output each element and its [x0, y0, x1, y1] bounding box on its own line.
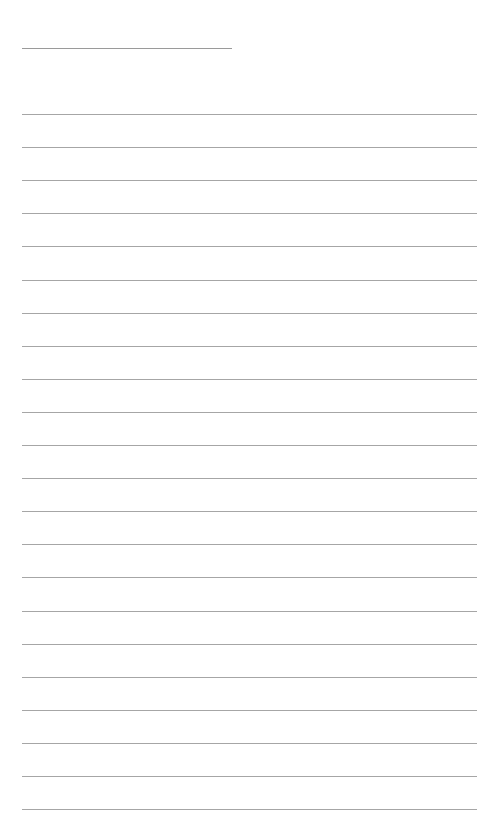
writing-line [22, 478, 477, 479]
writing-line [22, 577, 477, 578]
writing-line [22, 644, 477, 645]
writing-line [22, 114, 477, 115]
writing-line [22, 677, 477, 678]
writing-line [22, 809, 477, 810]
writing-line [22, 147, 477, 148]
writing-line [22, 743, 477, 744]
writing-line [22, 213, 477, 214]
writing-line [22, 280, 477, 281]
ruled-lines [22, 0, 477, 835]
writing-line [22, 346, 477, 347]
lined-page [0, 0, 490, 835]
writing-line [22, 611, 477, 612]
writing-line [22, 180, 477, 181]
writing-line [22, 710, 477, 711]
writing-line [22, 313, 477, 314]
writing-line [22, 776, 477, 777]
writing-line [22, 412, 477, 413]
writing-line [22, 445, 477, 446]
writing-line [22, 544, 477, 545]
writing-line [22, 511, 477, 512]
writing-line [22, 379, 477, 380]
writing-line [22, 246, 477, 247]
